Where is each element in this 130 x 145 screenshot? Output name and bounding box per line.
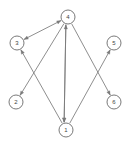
arrowhead-1-to-5 [107,50,111,54]
arrowhead-4-to-6 [107,91,110,96]
edge-4-to-1 [64,25,66,122]
graph-node-3[interactable]: 3 [10,36,24,50]
edge-3-to-4 [24,21,61,40]
graph-node-6[interactable]: 6 [107,95,121,109]
arrowhead-3-to-4 [57,21,62,24]
graph-node-4[interactable]: 4 [61,10,75,24]
arrowhead-4-to-2 [20,91,24,95]
directed-graph-figure: 435261 [0,0,130,145]
graph-node-5[interactable]: 5 [107,36,121,50]
graph-canvas: 435261 [0,0,130,145]
arrowhead-1-to-3 [21,50,25,54]
arrowhead-4-to-3 [24,36,29,39]
graph-node-2[interactable]: 2 [9,95,23,109]
arrowhead-4-to-1 [63,118,66,122]
edge-layer [20,21,110,124]
edge-1-to-5 [70,50,110,123]
graph-node-1[interactable]: 1 [59,123,73,137]
